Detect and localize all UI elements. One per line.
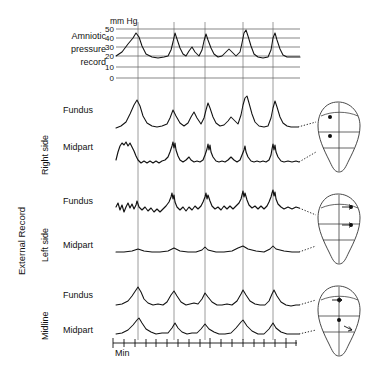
- figure-root: Amniotic pressure record mm Hg 50 40 30 …: [0, 0, 372, 367]
- uterus-diagram-left-side: [318, 194, 360, 264]
- trace-midline-fundus: [116, 287, 316, 306]
- trace-amniotic-pressure: [116, 30, 300, 58]
- electrode-dot-midpart: [328, 134, 332, 138]
- trace-left-midpart: [116, 246, 316, 252]
- chart-canvas: [0, 0, 372, 367]
- trace-right-fundus: [116, 96, 316, 128]
- uterus-diagram-right-side: [318, 102, 360, 172]
- electrode-dot-midpart: [337, 318, 341, 322]
- pressure-gridlines: [116, 29, 300, 78]
- uterus-diagram-midline: [318, 286, 360, 356]
- sync-gridlines: [138, 22, 273, 340]
- electrode-dot-fundus: [328, 115, 332, 119]
- trace-left-fundus: [116, 190, 316, 215]
- trace-midline-midpart: [116, 318, 316, 334]
- trace-right-midpart: [116, 142, 316, 163]
